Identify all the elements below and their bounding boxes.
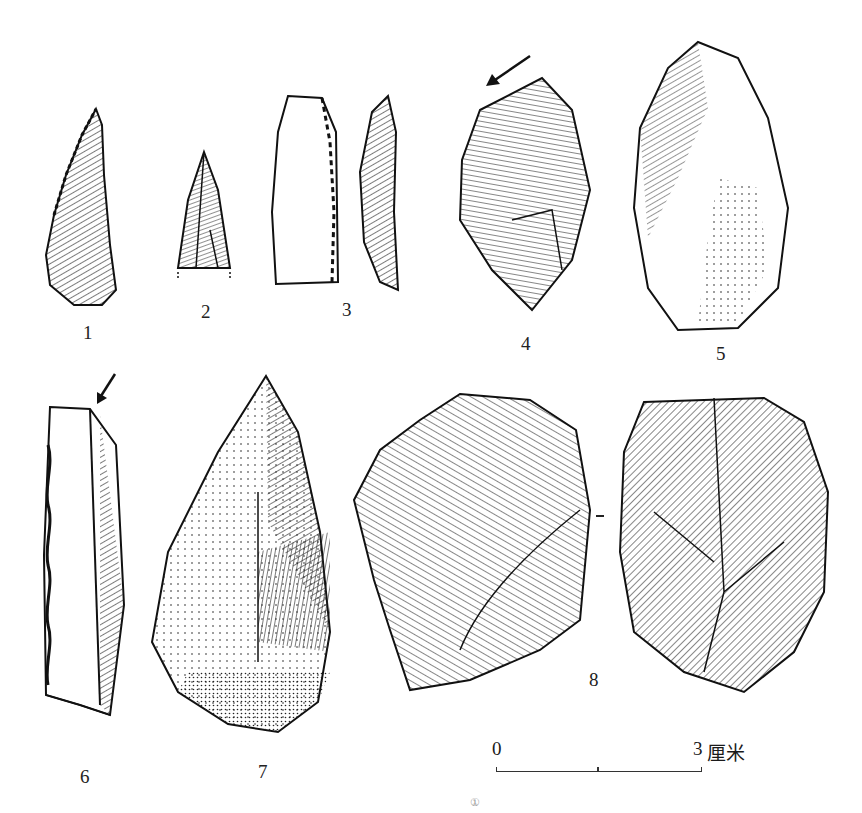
scale-mid-tick (597, 767, 599, 771)
artifact-6-drawing (40, 405, 130, 725)
footnote-marker: ① (470, 796, 480, 808)
arrow-icon (95, 372, 119, 406)
artifact-6-label: 6 (80, 767, 90, 786)
scale-start-label: 0 (492, 738, 502, 760)
artifact-7-label: 7 (258, 762, 268, 781)
scale-bar: 0 3 厘米 (492, 738, 762, 778)
scale-end-label: 3 (693, 738, 703, 760)
artifact-2-drawing (174, 150, 236, 280)
artifact-figure: 1 2 3 (0, 0, 862, 813)
artifact-7-drawing (148, 372, 338, 742)
artifact-3-drawing (268, 92, 408, 292)
artifact-8-front-drawing (350, 390, 590, 695)
artifact-4-drawing (452, 70, 602, 320)
artifact-1-label: 1 (83, 323, 93, 342)
artifact-5-label: 5 (716, 344, 726, 363)
artifact-5-drawing (628, 38, 798, 338)
arrow-icon (484, 54, 534, 90)
artifact-1-drawing (44, 105, 124, 310)
artifact-8-back-drawing (614, 392, 834, 702)
artifact-4-label: 4 (521, 334, 531, 353)
artifact-8-label: 8 (589, 670, 599, 689)
artifact-3-label: 3 (342, 300, 352, 319)
view-separator (596, 515, 604, 517)
figure-caption: ① (470, 796, 480, 813)
scale-line (496, 767, 702, 772)
scale-unit-label: 厘米 (707, 738, 745, 765)
artifact-2-label: 2 (201, 302, 211, 321)
